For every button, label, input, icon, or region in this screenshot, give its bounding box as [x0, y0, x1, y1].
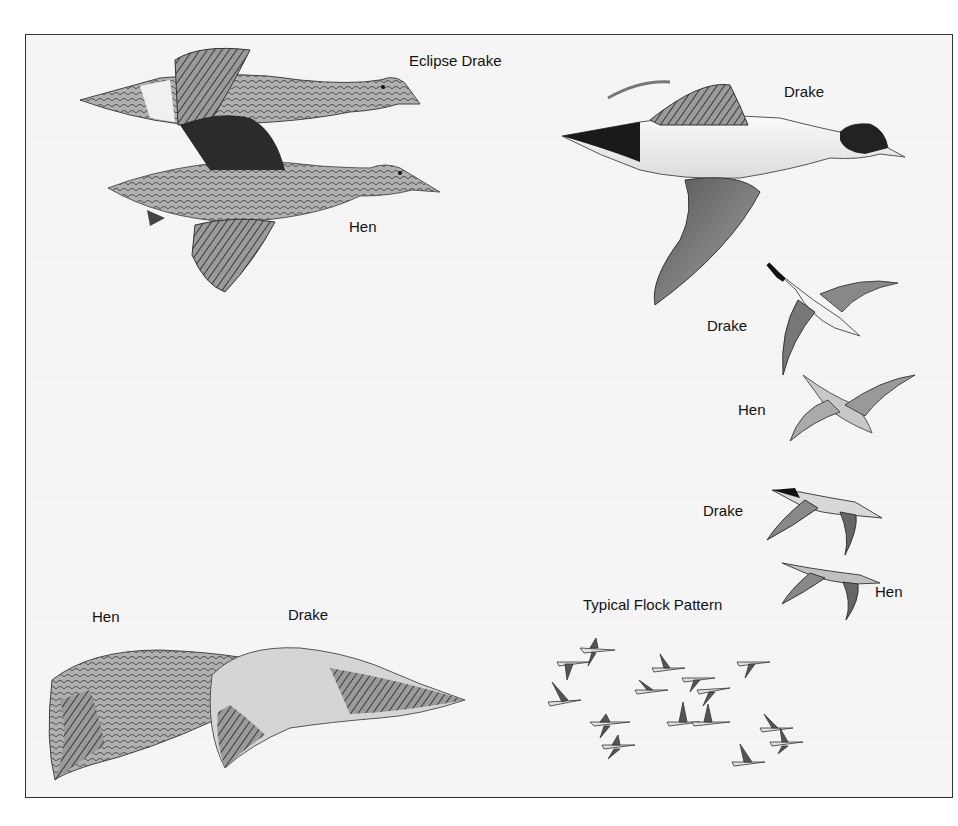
label-drake-mid-2: Drake — [703, 502, 743, 519]
drake-large-illustration — [562, 82, 905, 305]
drake-side-illustration — [767, 488, 882, 555]
label-drake-mid-1: Drake — [707, 317, 747, 334]
label-eclipse-drake: Eclipse Drake — [409, 52, 502, 69]
label-hen-top: Hen — [349, 218, 377, 235]
label-wing-hen: Hen — [92, 608, 120, 625]
label-drake-top-right: Drake — [784, 83, 824, 100]
label-hen-mid-2: Hen — [875, 583, 903, 600]
flock-pattern-illustration — [548, 638, 803, 766]
hen-banking-illustration — [790, 375, 915, 441]
label-wing-drake: Drake — [288, 606, 328, 623]
drake-banking-illustration — [768, 264, 898, 375]
hen-side-illustration — [782, 563, 880, 620]
drake-wing-illustration — [210, 648, 465, 768]
eclipse-drake-illustration — [80, 48, 420, 125]
label-typical-flock-pattern: Typical Flock Pattern — [583, 596, 722, 613]
label-hen-mid-1: Hen — [738, 401, 766, 418]
duck-illustrations — [0, 0, 958, 826]
hen-illustration — [108, 115, 440, 292]
